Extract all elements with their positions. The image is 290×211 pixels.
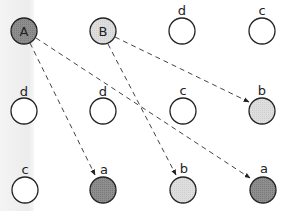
node-c3[interactable]: c <box>12 162 38 203</box>
node-c2[interactable]: c <box>170 83 196 124</box>
node-a2[interactable]: a <box>250 161 276 203</box>
node-A[interactable]: A <box>11 18 37 44</box>
edge-A-to-a2 <box>36 38 250 178</box>
node-label: b <box>258 83 266 98</box>
node-c1[interactable]: c <box>249 3 275 44</box>
node-label: d <box>178 3 186 18</box>
node-b1[interactable]: b <box>249 83 275 124</box>
node-a1[interactable]: a <box>90 162 116 203</box>
node-label: c <box>179 83 186 98</box>
node-label: d <box>20 84 28 99</box>
node-d3[interactable]: d <box>90 84 116 124</box>
node-label: c <box>21 162 28 177</box>
node-circle <box>249 98 275 124</box>
node-label: A <box>20 24 29 39</box>
node-circle <box>249 18 275 44</box>
node-circle <box>12 177 38 203</box>
node-label: c <box>258 3 265 18</box>
node-label: a <box>260 161 268 176</box>
edges <box>30 37 250 178</box>
node-b2[interactable]: b <box>170 161 196 203</box>
node-label: b <box>180 161 188 176</box>
edge-B-to-b2 <box>108 44 176 175</box>
node-label: d <box>99 84 107 99</box>
node-B[interactable]: B <box>90 18 116 44</box>
node-d1[interactable]: d <box>169 3 195 44</box>
graph-diagram: A B d c d d c b c a b a <box>0 0 290 211</box>
node-circle <box>90 98 116 124</box>
node-circle <box>11 98 37 124</box>
node-label: a <box>100 162 108 177</box>
node-circle <box>170 98 196 124</box>
node-circle <box>90 177 116 203</box>
node-label: B <box>99 24 108 39</box>
edge-A-to-a1 <box>30 43 95 175</box>
node-circle <box>169 18 195 44</box>
node-circle <box>170 177 196 203</box>
node-d2[interactable]: d <box>11 84 37 124</box>
node-circle <box>250 177 276 203</box>
